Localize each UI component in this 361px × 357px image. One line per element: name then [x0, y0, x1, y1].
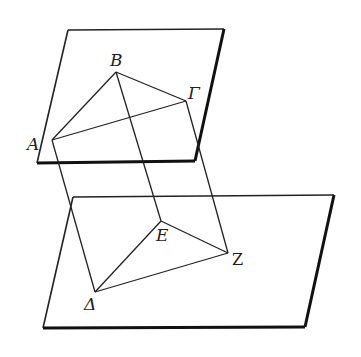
label-a: A — [25, 134, 39, 154]
label-b: B — [109, 50, 123, 70]
prism-between-planes-diagram: A B Γ Δ E Z — [0, 0, 361, 357]
label-gamma: Γ — [187, 83, 201, 103]
label-z: Z — [232, 250, 243, 269]
label-delta: Δ — [83, 294, 96, 314]
lateral-edges — [52, 72, 228, 292]
label-e: E — [155, 225, 169, 245]
